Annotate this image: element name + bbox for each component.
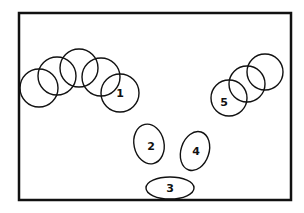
frame: [19, 13, 291, 200]
left-circle-group: [20, 49, 139, 112]
circle: [38, 57, 76, 95]
label-5: 5: [220, 96, 228, 109]
diagram-canvas: 1 5 2 4 3: [0, 0, 304, 213]
circle: [60, 49, 98, 87]
label-1: 1: [116, 87, 124, 100]
circle: [20, 69, 58, 107]
label-3: 3: [166, 182, 174, 195]
label-4: 4: [192, 145, 200, 158]
label-2: 2: [147, 140, 155, 153]
